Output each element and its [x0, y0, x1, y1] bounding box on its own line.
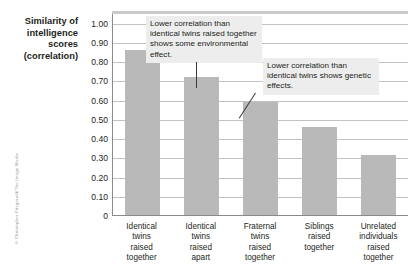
category-label-line: together: [112, 253, 171, 263]
y-axis-tick-label: 0.90: [91, 38, 108, 48]
category-label-line: raised: [112, 243, 171, 253]
y-axis-tick-label: 0.70: [91, 76, 108, 86]
bar: [302, 127, 336, 215]
bar-slot: [291, 14, 349, 215]
y-axis-tick-label: 0: [103, 211, 108, 221]
category-label-line: together: [290, 243, 349, 253]
annotation-environmental-effect: Lower correlation than identical twins r…: [146, 16, 262, 63]
y-axis-tick-label: 0.80: [91, 57, 108, 67]
category-label-line: Unrelated: [349, 222, 408, 232]
category-label-line: raised: [230, 243, 289, 253]
category-label-line: raised: [290, 232, 349, 242]
y-axis-title-line: intelligence: [4, 28, 78, 40]
x-axis-category-label: Fraternaltwinsraisedtogether: [230, 222, 289, 278]
y-axis-tick-label: 0.40: [91, 134, 108, 144]
annotation-leader-line: [196, 62, 197, 88]
y-axis-tick-label: 0.10: [91, 192, 108, 202]
bar: [361, 155, 395, 215]
category-label-line: Siblings: [290, 222, 349, 232]
y-axis-tick-label: 1.00: [91, 19, 108, 29]
category-label-line: twins: [230, 232, 289, 242]
y-axis-tick-label: 0.30: [91, 153, 108, 163]
bar: [184, 77, 218, 216]
x-axis-category-label: Identicaltwinsraisedapart: [171, 222, 230, 278]
image-credit: © Christopher Fitzgerald/The Image Works: [14, 139, 19, 259]
y-axis-tick-label: 0.50: [91, 115, 108, 125]
y-axis-tick-label: 0.60: [91, 96, 108, 106]
x-axis-category-labels: IdenticaltwinsraisedtogetherIdenticaltwi…: [112, 222, 408, 278]
x-axis-category-label: Siblingsraisedtogether: [290, 222, 349, 278]
category-label-line: twins: [171, 232, 230, 242]
bar-chart: © Christopher Fitzgerald/The Image Works…: [0, 0, 416, 280]
y-axis-title-line: scores: [4, 39, 78, 51]
category-label-line: individuals: [349, 232, 408, 242]
category-label-line: Identical: [112, 222, 171, 232]
bar: [125, 50, 159, 215]
bar-slot: [350, 14, 408, 215]
category-label-line: together: [230, 253, 289, 263]
x-axis-category-label: Identicaltwinsraisedtogether: [112, 222, 171, 278]
annotation-genetic-effects: Lower correlation than identical twins s…: [263, 58, 379, 95]
y-axis-title-line: Similarity of: [4, 16, 78, 28]
category-label-line: Identical: [171, 222, 230, 232]
y-axis-tick-labels: 00.100.200.300.400.500.600.700.800.901.0…: [78, 0, 108, 218]
category-label-line: raised: [349, 243, 408, 253]
category-label-line: apart: [171, 253, 230, 263]
category-label-line: raised: [171, 243, 230, 253]
category-label-line: together: [349, 253, 408, 263]
category-label-line: Fraternal: [230, 222, 289, 232]
x-axis-category-label: Unrelatedindividualsraisedtogether: [349, 222, 408, 278]
y-axis-title-line: (correlation): [4, 51, 78, 63]
bar: [243, 102, 277, 216]
y-axis-title: Similarity of intelligence scores (corre…: [4, 16, 78, 62]
category-label-line: twins: [112, 232, 171, 242]
y-axis-tick-label: 0.20: [91, 173, 108, 183]
